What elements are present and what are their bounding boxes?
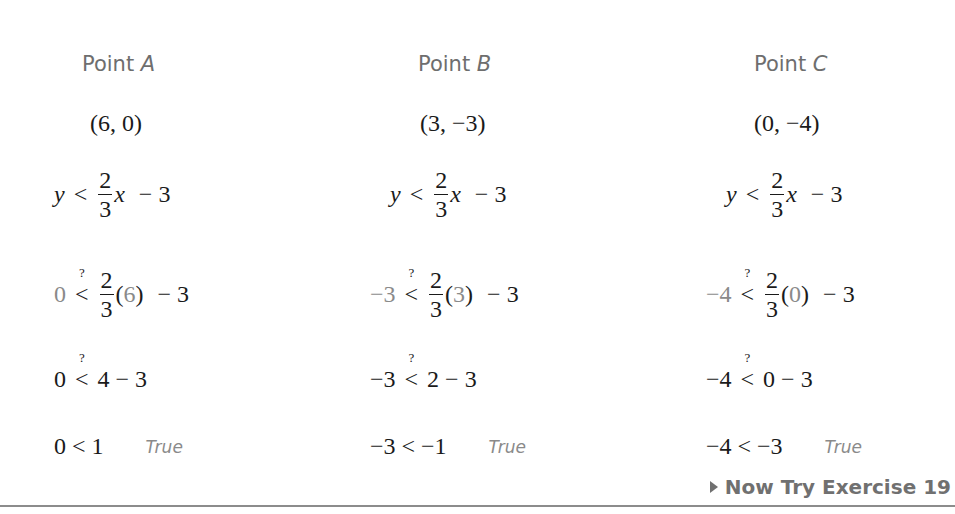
constant-term: − 3 — [823, 281, 855, 308]
result-inequality: −4 < −3 — [706, 433, 783, 460]
divider — [0, 505, 955, 507]
less-than: < — [741, 366, 755, 392]
result-inequality: −3 < −1 — [370, 433, 447, 460]
numerator: 2 — [765, 268, 779, 292]
heading-letter: A — [141, 52, 155, 76]
less-than: < — [410, 181, 424, 208]
fraction: 23 — [434, 168, 448, 221]
fraction-bar — [770, 194, 784, 195]
simplified-step: −4 ?< 0 − 3 — [706, 366, 813, 393]
question-less-than: ?< — [75, 366, 89, 393]
denominator: 3 — [101, 297, 113, 321]
fraction: 23 — [98, 168, 112, 221]
now-try-exercise-link[interactable]: Now Try Exercise 19 — [710, 475, 951, 499]
less-than: < — [74, 181, 88, 208]
inequality: y < 23 x − 3 — [726, 168, 842, 221]
denominator: 3 — [99, 197, 111, 221]
denominator: 3 — [771, 197, 783, 221]
denominator: 3 — [435, 197, 447, 221]
less-than: < — [741, 281, 755, 307]
result: 0 < 1 True — [54, 433, 183, 460]
question-mark: ? — [744, 350, 750, 366]
fraction: 23 — [100, 268, 114, 321]
fraction-bar — [429, 294, 443, 295]
result-inequality: 0 < 1 — [54, 433, 104, 460]
lhs: −4 — [706, 366, 732, 393]
heading-point-b: Point B — [418, 52, 491, 76]
question-less-than: ?< — [741, 281, 755, 308]
right-paren: ) — [136, 281, 144, 308]
point-coordinates: (3, −3) — [420, 110, 486, 137]
result: −4 < −3 True — [706, 433, 862, 460]
lhs: 0 — [54, 281, 66, 308]
denominator: 3 — [430, 297, 442, 321]
point-coordinates: (6, 0) — [90, 110, 142, 137]
rhs: 0 − 3 — [763, 366, 813, 393]
result: −3 < −1 True — [370, 433, 526, 460]
fraction: 23 — [765, 268, 779, 321]
constant-term: − 3 — [139, 181, 171, 208]
substituted-value: 6 — [124, 281, 136, 308]
question-mark: ? — [744, 265, 750, 281]
fraction: 23 — [429, 268, 443, 321]
lhs: −3 — [370, 281, 396, 308]
constant-term: − 3 — [158, 281, 190, 308]
substitution: −3 ?< 23 (3) − 3 — [370, 268, 519, 321]
fraction-bar — [765, 294, 779, 295]
variable: x — [450, 181, 461, 208]
denominator: 3 — [766, 297, 778, 321]
substituted-value: 3 — [453, 281, 465, 308]
variable: x — [114, 181, 125, 208]
numerator: 2 — [770, 168, 784, 192]
less-than: < — [405, 366, 419, 392]
numerator: 2 — [98, 168, 112, 192]
verdict: True — [825, 437, 862, 457]
column-point-b: Point B (3, −3) y < 23 x − 3 −3 ?< 23 (3… — [318, 0, 636, 480]
less-than: < — [75, 281, 89, 307]
question-mark: ? — [79, 350, 85, 366]
fraction-bar — [434, 194, 448, 195]
heading-point-a: Point A — [82, 52, 155, 76]
fraction: 23 — [770, 168, 784, 221]
lhs: −3 — [370, 366, 396, 393]
variable: x — [786, 181, 797, 208]
substituted-value: 0 — [789, 281, 801, 308]
constant-term: − 3 — [811, 181, 843, 208]
inequality: y < 23 x − 3 — [390, 168, 506, 221]
question-mark: ? — [408, 265, 414, 281]
column-point-a: Point A (6, 0) y < 23 x − 3 0 ?< 23 (6) … — [0, 0, 318, 480]
constant-term: − 3 — [475, 181, 507, 208]
question-less-than: ?< — [75, 281, 89, 308]
heading-label: Point — [754, 52, 813, 76]
question-less-than: ?< — [405, 366, 419, 393]
right-paren: ) — [465, 281, 473, 308]
numerator: 2 — [434, 168, 448, 192]
point-coordinates: (0, −4) — [754, 110, 820, 137]
heading-point-c: Point C — [754, 52, 828, 76]
lhs: −4 — [706, 281, 732, 308]
question-mark: ? — [408, 350, 414, 366]
question-less-than: ?< — [405, 281, 419, 308]
less-than: < — [405, 281, 419, 307]
question-less-than: ?< — [741, 366, 755, 393]
lhs: 0 — [54, 366, 66, 393]
lhs: y — [390, 181, 401, 208]
rhs: 2 − 3 — [427, 366, 477, 393]
heading-letter: C — [813, 52, 828, 76]
heading-label: Point — [418, 52, 477, 76]
left-paren: ( — [116, 281, 124, 308]
less-than: < — [75, 366, 89, 392]
triangle-right-icon — [710, 481, 718, 493]
verdict: True — [146, 437, 183, 457]
substitution: −4 ?< 23 (0) − 3 — [706, 268, 855, 321]
less-than: < — [746, 181, 760, 208]
column-point-c: Point C (0, −4) y < 23 x − 3 −4 ?< 23 (0… — [636, 0, 954, 480]
substitution: 0 ?< 23 (6) − 3 — [54, 268, 189, 321]
question-mark: ? — [79, 265, 85, 281]
fraction-bar — [98, 194, 112, 195]
lhs: y — [54, 181, 65, 208]
now-try-exercise-label: Now Try Exercise 19 — [725, 475, 951, 499]
inequality: y < 23 x − 3 — [54, 168, 170, 221]
rhs: 4 − 3 — [98, 366, 148, 393]
lhs: y — [726, 181, 737, 208]
